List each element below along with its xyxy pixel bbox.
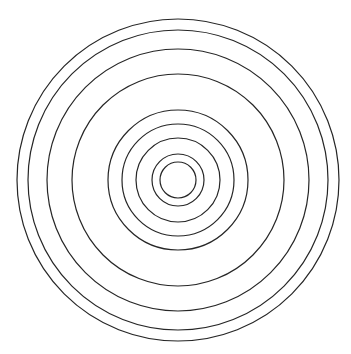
circle-ring-2 bbox=[28, 30, 328, 330]
circle-ring-5 bbox=[108, 110, 248, 250]
circle-ring-9 bbox=[160, 162, 196, 198]
figure-canvas: · · bbox=[0, 0, 351, 354]
circle-ring-6 bbox=[122, 124, 234, 236]
concentric-circles-figure bbox=[0, 0, 351, 354]
circle-ring-1 bbox=[17, 19, 339, 341]
circle-ring-4 bbox=[72, 74, 284, 286]
circle-group bbox=[17, 19, 339, 341]
circle-ring-7 bbox=[136, 138, 220, 222]
circle-ring-3 bbox=[47, 49, 309, 311]
